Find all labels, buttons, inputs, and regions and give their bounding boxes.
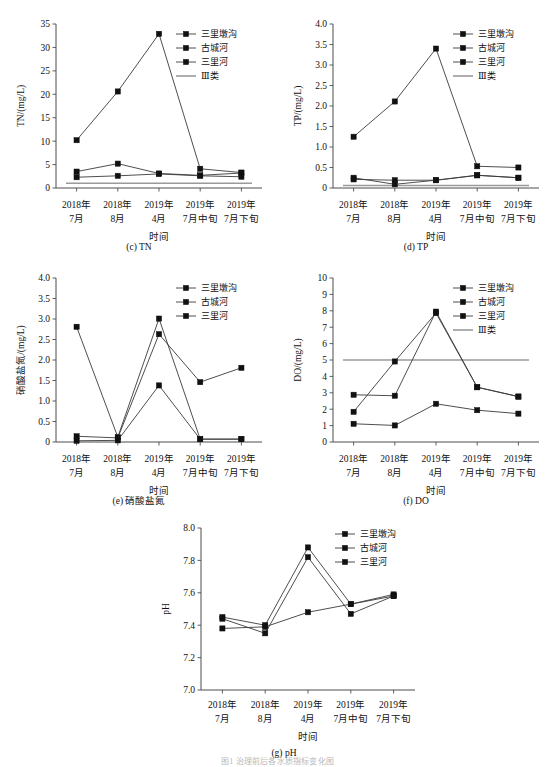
y-tick-label: 9 — [322, 290, 327, 300]
x-axis-title: 时间 — [149, 485, 169, 496]
x-tick-label: 7月下旬 — [501, 467, 536, 478]
y-tick-label: 8 — [322, 306, 327, 316]
tp-plot: 00.51.01.52.02.53.03.54.02018年7月2018年8月2… — [277, 4, 555, 254]
data-point-marker — [115, 438, 120, 443]
x-tick-label: 4月 — [152, 468, 167, 478]
chart-panel-do: 0123456789102018年7月2018年8月2019年4月2019年7月… — [277, 258, 555, 508]
x-tick-label: 7月 — [69, 214, 84, 224]
x-tick-label: 2019年 — [504, 453, 533, 464]
x-tick-label: 2018年 — [103, 453, 132, 464]
x-tick-label: 2018年 — [380, 199, 409, 210]
y-tick-label: 7 — [322, 323, 327, 333]
data-point-marker — [516, 165, 521, 170]
legend-label: 古城河 — [201, 296, 228, 307]
data-point-marker — [392, 393, 397, 398]
legend-label: Ⅲ类 — [201, 70, 219, 81]
x-tick-label: 2018年 — [339, 453, 368, 464]
data-point-marker — [220, 626, 225, 631]
legend-label: 三里墩沟 — [478, 28, 514, 39]
y-tick-label: 5 — [322, 355, 327, 365]
legend-label: 三里河 — [478, 310, 505, 321]
chart-panel-ph: 7.07.27.47.67.88.02018年7月2018年8月2019年4月2… — [139, 508, 429, 760]
data-point-marker — [351, 409, 356, 414]
x-axis-title: 时间 — [426, 485, 446, 496]
chart-panel-tp: 00.51.01.52.02.53.03.54.02018年7月2018年8月2… — [277, 4, 555, 254]
y-tick-label: 0 — [322, 437, 327, 447]
x-tick-label: 7月 — [346, 214, 361, 224]
data-point-marker — [391, 593, 396, 598]
data-point-marker — [348, 611, 353, 616]
x-tick-label: 7月 — [69, 468, 84, 478]
tn-plot: 051015202530352018年7月2018年8月2019年4月2019年… — [0, 4, 278, 254]
data-point-marker — [156, 31, 161, 36]
y-tick-label: 0.5 — [315, 163, 327, 173]
legend-label: 古城河 — [201, 42, 228, 53]
figure-root: 051015202530352018年7月2018年8月2019年4月2019年… — [0, 0, 555, 767]
panel-caption: (e) 硝酸盐氮 — [113, 495, 166, 507]
data-point-marker — [74, 138, 79, 143]
x-tick-label: 2019年 — [145, 199, 174, 210]
x-tick-label: 8月 — [387, 468, 402, 478]
legend-label: 古城河 — [478, 296, 505, 307]
data-point-marker — [74, 169, 79, 174]
data-point-marker — [516, 175, 521, 180]
data-point-marker — [516, 411, 521, 416]
y-tick-label: 3.5 — [315, 40, 327, 50]
panel-caption: (c) TN — [126, 242, 152, 253]
x-tick-label: 8月 — [387, 214, 402, 224]
y-tick-label: 15 — [41, 113, 51, 123]
y-tick-label: 20 — [41, 90, 51, 100]
y-axis-title: 硝酸盐氮/(mg/L) — [15, 325, 27, 395]
y-tick-label: 7.0 — [183, 685, 195, 695]
y-tick-label: 2.5 — [38, 335, 50, 345]
legend-label: 三里墩沟 — [478, 282, 514, 293]
x-tick-label: 7月中旬 — [183, 213, 218, 224]
x-tick-label: 2019年 — [145, 453, 174, 464]
y-tick-label: 8.0 — [183, 523, 195, 533]
legend-label: 三里墩沟 — [201, 28, 237, 39]
y-tick-label: 0 — [45, 183, 50, 193]
x-tick-label: 2019年 — [336, 699, 365, 710]
y-tick-label: 0 — [45, 437, 50, 447]
y-tick-label: 4.0 — [315, 19, 327, 29]
data-point-marker — [392, 99, 397, 104]
x-tick-label: 2019年 — [422, 199, 451, 210]
y-tick-label: 1.0 — [315, 142, 327, 152]
data-point-marker — [516, 394, 521, 399]
x-tick-label: 2019年 — [227, 453, 256, 464]
x-tick-label: 4月 — [429, 214, 444, 224]
panel-caption: (f) DO — [403, 496, 429, 507]
data-point-marker — [156, 332, 161, 337]
x-tick-label: 2018年 — [62, 453, 91, 464]
y-tick-label: 10 — [41, 137, 51, 147]
data-point-marker — [348, 602, 353, 607]
data-point-marker — [433, 178, 438, 183]
nitrate-plot: 00.51.01.52.02.53.03.54.02018年7月2018年8月2… — [0, 258, 278, 508]
data-point-marker — [475, 164, 480, 169]
data-point-marker — [156, 171, 161, 176]
data-point-marker — [305, 545, 310, 550]
x-tick-label: 4月 — [152, 214, 167, 224]
y-tick-label: 0 — [322, 183, 327, 193]
y-tick-label: 1.0 — [38, 396, 50, 406]
legend-label: 三里河 — [201, 56, 228, 67]
x-tick-label: 2018年 — [208, 699, 237, 710]
legend-label: Ⅲ类 — [478, 70, 496, 81]
series-line-0 — [354, 312, 519, 397]
y-axis-title: TP/(mg/L) — [293, 86, 304, 127]
data-point-marker — [198, 173, 203, 178]
y-tick-label: 7.6 — [183, 588, 195, 598]
data-point-marker — [392, 182, 397, 187]
x-axis-title: 时间 — [149, 231, 169, 242]
legend-label: 古城河 — [478, 42, 505, 53]
x-tick-label: 2019年 — [227, 199, 256, 210]
data-point-marker — [74, 438, 79, 443]
data-point-marker — [156, 316, 161, 321]
data-point-marker — [74, 175, 79, 180]
y-tick-label: 2.0 — [38, 355, 50, 365]
data-point-marker — [239, 437, 244, 442]
y-tick-label: 7.8 — [183, 556, 195, 566]
y-tick-label: 3 — [322, 388, 327, 398]
data-point-marker — [74, 324, 79, 329]
data-point-marker — [115, 161, 120, 166]
